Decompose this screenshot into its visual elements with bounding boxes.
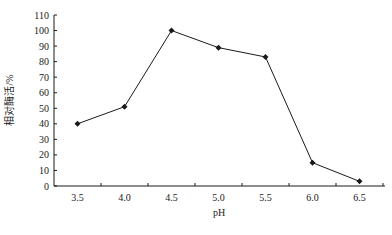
- y-axis: 0102030405060708090100110: [34, 10, 57, 192]
- diamond-marker-icon: [310, 160, 316, 166]
- y-tick-label: 10: [39, 165, 49, 176]
- y-tick-label: 90: [39, 41, 49, 52]
- x-tick-label: 5.5: [259, 192, 272, 203]
- diamond-marker-icon: [122, 104, 128, 110]
- y-tick-label: 70: [39, 72, 49, 83]
- y-tick-label: 0: [44, 181, 49, 192]
- x-tick-label: 4.0: [118, 192, 131, 203]
- x-axis-title: pH: [213, 207, 225, 218]
- x-tick-label: 5.0: [212, 192, 225, 203]
- y-tick-label: 100: [34, 25, 49, 36]
- y-tick-label: 40: [39, 118, 49, 129]
- diamond-marker-icon: [75, 121, 81, 127]
- line-chart: 0102030405060708090100110 3.54.04.55.05.…: [0, 0, 392, 235]
- diamond-marker-icon: [169, 28, 175, 34]
- x-tick-label: 4.5: [165, 192, 178, 203]
- diamond-marker-icon: [216, 45, 222, 51]
- y-tick-label: 30: [39, 134, 49, 145]
- y-axis-title: 相对酶活/%: [3, 74, 15, 125]
- x-tick-label: 6.5: [353, 192, 366, 203]
- y-tick-label: 20: [39, 149, 49, 160]
- diamond-marker-icon: [263, 54, 269, 60]
- x-axis: 3.54.04.55.05.56.06.5: [54, 183, 385, 203]
- x-tick-label: 3.5: [71, 192, 84, 203]
- y-tick-label: 80: [39, 56, 49, 67]
- y-tick-label: 50: [39, 103, 49, 114]
- x-tick-label: 6.0: [306, 192, 319, 203]
- diamond-marker-icon: [357, 178, 363, 184]
- y-tick-label: 60: [39, 87, 49, 98]
- series-polyline: [78, 31, 360, 182]
- series-line: [75, 28, 363, 185]
- y-tick-label: 110: [34, 10, 49, 21]
